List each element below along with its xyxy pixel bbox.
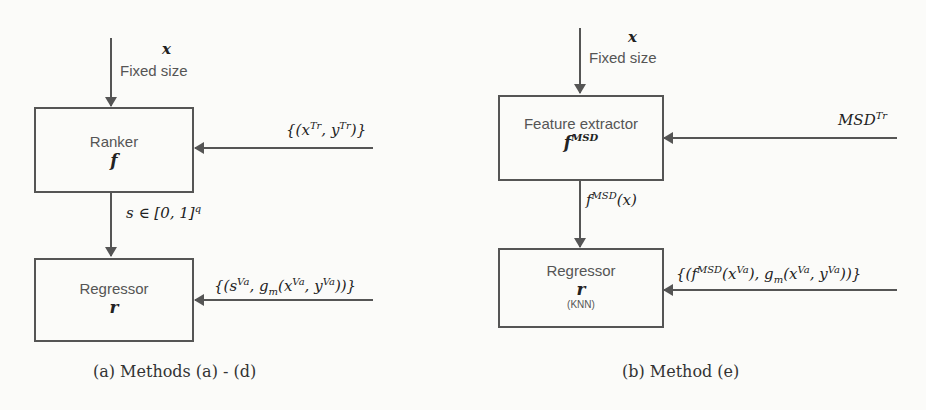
feature-extractor-block: Feature extractor fMSD (498, 95, 664, 181)
caption-b: (b) Method (e) (622, 362, 739, 381)
val-data-label-a: {(sVa, gm(xVa, yVa))} (214, 276, 356, 297)
ranker-block: Ranker f (34, 107, 194, 193)
val-data-label-b: {(fMSD(xVa), gm(xVa, yVa))} (676, 264, 861, 285)
train-data-label-b: MSDTr (838, 110, 887, 129)
fixed-size-label-b: Fixed size (589, 49, 657, 66)
feature-label-b: fMSD(x) (586, 190, 637, 209)
train-data-label-a: {(xTr, yTr)} (286, 120, 366, 139)
regressor-block-b: Regressor r (KNN) (498, 248, 664, 328)
feature-extractor-title: Feature extractor (500, 115, 662, 132)
regressor-block-a: Regressor r (34, 258, 194, 342)
regressor-subtitle-b: (KNN) (500, 299, 662, 310)
regressor-symbol-a: r (36, 297, 192, 317)
input-x-label-a: x (162, 40, 171, 58)
fixed-size-label-a: Fixed size (120, 62, 188, 79)
regressor-symbol-b: r (500, 279, 662, 299)
regressor-title-a: Regressor (36, 280, 192, 297)
ranker-title: Ranker (36, 133, 192, 150)
feature-extractor-symbol: fMSD (500, 132, 662, 152)
regressor-title-b: Regressor (500, 262, 662, 279)
ranker-symbol: f (36, 150, 192, 170)
score-label-a: s ∈ [0, 1]q (126, 203, 201, 222)
caption-a: (a) Methods (a) - (d) (93, 362, 256, 381)
input-x-label-b: x (628, 28, 637, 46)
